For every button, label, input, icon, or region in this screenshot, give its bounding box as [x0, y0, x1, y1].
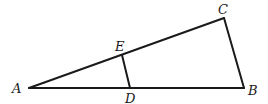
diagram-svg: A B C D E [0, 0, 268, 104]
triangle-diagram: A B C D E [0, 0, 268, 104]
label-c: C [218, 2, 228, 17]
label-b: B [247, 83, 258, 98]
segment-cb [224, 18, 244, 88]
label-e: E [114, 39, 125, 54]
label-a: A [11, 81, 21, 96]
segment-ed [122, 55, 130, 88]
label-d: D [124, 91, 136, 104]
